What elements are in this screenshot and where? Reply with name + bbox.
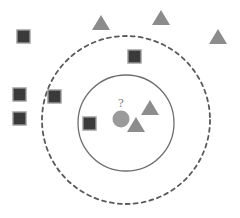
data-point-square-3 — [13, 88, 26, 101]
knn-diagram: ? — [0, 0, 240, 218]
data-point-square-5 — [13, 112, 26, 125]
knn-plot-canvas: ? — [0, 0, 240, 218]
data-point-triangle-2 — [152, 10, 170, 25]
query-point-marker — [113, 111, 130, 128]
data-point-square-6 — [83, 117, 96, 130]
data-point-triangle-5 — [127, 117, 145, 132]
data-point-triangle-4 — [141, 100, 159, 115]
query-point-label: ? — [118, 95, 124, 110]
data-point-square-2 — [128, 50, 141, 63]
data-point-triangle-3 — [209, 29, 227, 44]
data-point-square-1 — [17, 30, 30, 43]
data-point-square-4 — [48, 90, 61, 103]
data-point-triangle-1 — [92, 15, 110, 30]
